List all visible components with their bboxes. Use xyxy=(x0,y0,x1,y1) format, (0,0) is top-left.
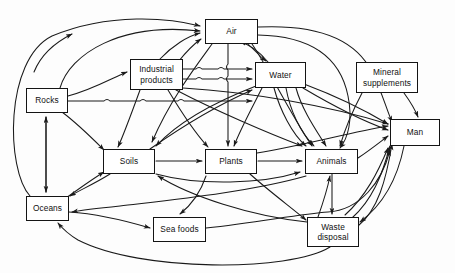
node-air[interactable]: Air xyxy=(205,19,258,44)
edge-group-water-out xyxy=(156,84,388,146)
node-industrial-products[interactable]: Industrial products xyxy=(130,59,183,90)
node-man-label: Man xyxy=(405,127,425,137)
node-soils-label: Soils xyxy=(118,156,140,166)
node-air-label: Air xyxy=(224,26,238,36)
node-rocks[interactable]: Rocks xyxy=(26,88,68,113)
node-animals-label: Animals xyxy=(314,156,348,166)
node-water-label: Water xyxy=(267,70,293,80)
node-oceans-label: Oceans xyxy=(31,203,64,213)
node-mineral-supplements-label: Mineral supplements xyxy=(361,67,413,87)
node-oceans[interactable]: Oceans xyxy=(26,196,69,221)
node-waste-disposal[interactable]: Waste disposal xyxy=(307,217,359,247)
node-man[interactable]: Man xyxy=(390,119,440,146)
flow-diagram: Air Industrial products Water Mineral su… xyxy=(0,0,455,273)
edge-group-air-water xyxy=(152,42,312,146)
node-rocks-label: Rocks xyxy=(33,95,61,105)
node-plants[interactable]: Plants xyxy=(205,149,257,174)
node-sea-foods[interactable]: Sea foods xyxy=(153,217,206,242)
edge-group-industrial xyxy=(118,33,388,147)
node-soils[interactable]: Soils xyxy=(103,149,155,174)
node-sea-foods-label: Sea foods xyxy=(158,224,200,234)
node-water[interactable]: Water xyxy=(255,62,306,88)
node-waste-disposal-label: Waste disposal xyxy=(315,222,350,242)
node-industrial-products-label: Industrial products xyxy=(137,64,176,84)
node-plants-label: Plants xyxy=(217,156,245,166)
node-mineral-supplements[interactable]: Mineral supplements xyxy=(356,62,418,93)
node-animals[interactable]: Animals xyxy=(305,149,358,174)
